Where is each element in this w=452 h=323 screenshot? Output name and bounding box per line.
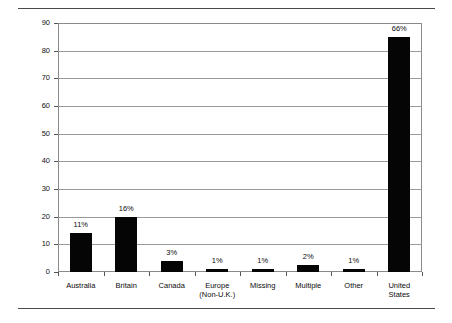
y-tick-label: 40 bbox=[24, 157, 50, 165]
y-tick-label: 60 bbox=[24, 102, 50, 110]
x-category-label: United States bbox=[371, 281, 427, 299]
x-tick-mark bbox=[195, 272, 196, 276]
bar-value-label: 1% bbox=[243, 257, 283, 265]
bar bbox=[388, 37, 410, 272]
chart-figure: 0102030405060708090 11%16%3%1%1%2%1%66% … bbox=[0, 0, 452, 323]
plot-area: 0102030405060708090 11%16%3%1%1%2%1%66% bbox=[58, 23, 422, 272]
y-tick-label: 50 bbox=[24, 130, 50, 138]
y-tick-mark bbox=[54, 161, 58, 162]
bar bbox=[161, 261, 183, 272]
gridline bbox=[58, 134, 422, 135]
x-tick-mark bbox=[104, 272, 105, 276]
y-tick-mark bbox=[54, 134, 58, 135]
plot-frame bbox=[58, 23, 422, 272]
gridline bbox=[58, 78, 422, 79]
bar-value-label: 11% bbox=[61, 221, 101, 229]
y-tick-label: 10 bbox=[24, 240, 50, 248]
gridline bbox=[58, 161, 422, 162]
gridline bbox=[58, 244, 422, 245]
y-tick-mark bbox=[54, 244, 58, 245]
top-divider-rule bbox=[18, 8, 435, 9]
y-tick-mark bbox=[54, 106, 58, 107]
y-tick-mark bbox=[54, 51, 58, 52]
gridline bbox=[58, 217, 422, 218]
bar bbox=[206, 269, 228, 272]
y-tick-label: 0 bbox=[24, 268, 50, 276]
bar-value-label: 1% bbox=[334, 257, 374, 265]
bar bbox=[252, 269, 274, 272]
y-tick-mark bbox=[54, 78, 58, 79]
bar bbox=[70, 233, 92, 272]
bar-value-label: 3% bbox=[152, 249, 192, 257]
bar-value-label: 2% bbox=[288, 253, 328, 261]
y-tick-label: 30 bbox=[24, 185, 50, 193]
y-tick-mark bbox=[54, 189, 58, 190]
x-tick-mark bbox=[286, 272, 287, 276]
x-tick-mark bbox=[377, 272, 378, 276]
bar bbox=[297, 265, 319, 272]
x-tick-mark bbox=[422, 272, 423, 276]
y-tick-mark bbox=[54, 23, 58, 24]
y-tick-label: 90 bbox=[24, 19, 50, 27]
y-tick-label: 80 bbox=[24, 47, 50, 55]
x-tick-mark bbox=[58, 272, 59, 276]
bar bbox=[115, 217, 137, 272]
x-tick-mark bbox=[240, 272, 241, 276]
bar-value-label: 1% bbox=[197, 257, 237, 265]
x-tick-mark bbox=[149, 272, 150, 276]
y-tick-mark bbox=[54, 217, 58, 218]
y-tick-label: 20 bbox=[24, 213, 50, 221]
gridline bbox=[58, 189, 422, 190]
bottom-divider-rule bbox=[18, 308, 435, 309]
x-tick-mark bbox=[331, 272, 332, 276]
bar-value-label: 16% bbox=[106, 205, 146, 213]
gridline bbox=[58, 106, 422, 107]
bar bbox=[343, 269, 365, 272]
bar-value-label: 66% bbox=[379, 25, 419, 33]
y-tick-label: 70 bbox=[24, 74, 50, 82]
gridline bbox=[58, 51, 422, 52]
